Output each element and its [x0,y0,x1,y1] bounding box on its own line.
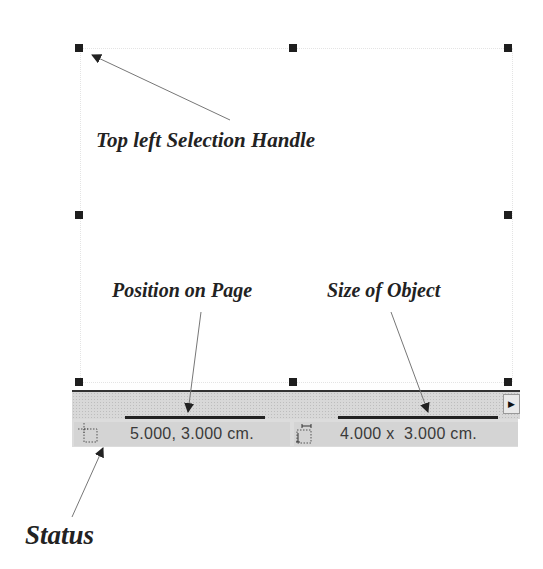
caption-position-on-page: Position on Page [112,279,252,302]
scroll-right-button[interactable]: ▶ [503,394,520,414]
selection-handle-top-left[interactable] [75,44,83,52]
caption-size-of-object: Size of Object [327,279,440,302]
size-value: 4.000 x 3.000 cm. [340,425,477,443]
selection-handle-top-right[interactable] [504,44,512,52]
selection-handle-middle-left[interactable] [75,211,83,219]
horizontal-scrollbar[interactable]: ▶ [72,390,520,419]
dotted-border-right [512,48,513,382]
drawing-canvas[interactable] [72,40,518,382]
selection-handle-bottom-left[interactable] [75,378,83,386]
selection-handle-bottom-center[interactable] [289,378,297,386]
position-pane: 5.000, 3.000 cm. [74,422,290,446]
size-pane: 4.000 x 3.000 cm. [294,422,518,446]
size-icon [294,423,318,445]
caption-top-left-handle: Top left Selection Handle [96,128,315,153]
selection-handle-top-center[interactable] [289,44,297,52]
arrow-right-icon: ▶ [508,399,515,409]
position-value: 5.000, 3.000 cm. [130,425,254,443]
selection-handle-bottom-right[interactable] [504,378,512,386]
size-underline [338,416,498,419]
position-underline [125,416,265,419]
status-bar: 5.000, 3.000 cm. 4.000 x 3.000 cm. [72,419,518,447]
position-icon [78,423,102,445]
selection-handle-middle-right[interactable] [504,211,512,219]
caption-status: Status [25,520,94,551]
